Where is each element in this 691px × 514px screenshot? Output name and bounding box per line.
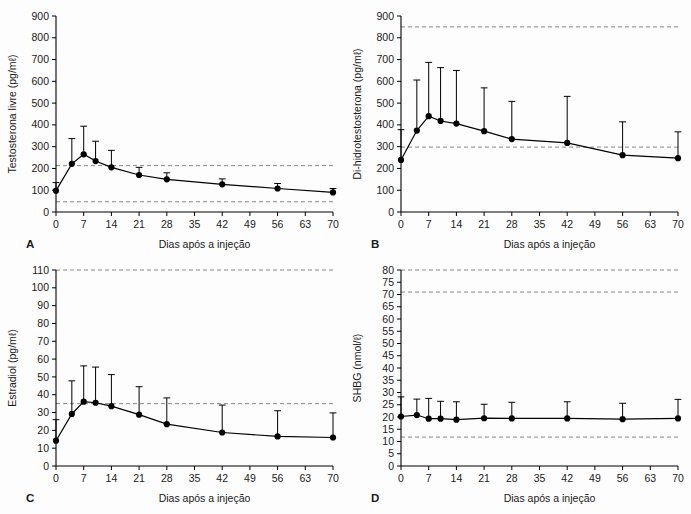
- data-point-marker: [275, 433, 281, 439]
- y-tick-label: 100: [31, 281, 49, 293]
- x-tick-label: 70: [327, 472, 339, 484]
- x-tick-label: 28: [506, 218, 518, 230]
- x-tick-label: 28: [161, 472, 173, 484]
- y-tick-label: 300: [31, 140, 49, 152]
- chart-svg-a: 0100200300400500600700800900071421283542…: [0, 0, 345, 254]
- y-tick-label: 10: [37, 442, 49, 454]
- data-point-marker: [136, 412, 142, 418]
- data-point-marker: [426, 416, 432, 422]
- y-tick-label: 300: [376, 140, 394, 152]
- y-tick-label: 65: [382, 300, 394, 312]
- x-tick-label: 21: [478, 218, 490, 230]
- data-point-marker: [398, 413, 404, 419]
- data-point-marker: [53, 188, 59, 194]
- y-tick-label: 500: [31, 97, 49, 109]
- x-tick-label: 56: [617, 218, 629, 230]
- data-point-marker: [481, 128, 487, 134]
- y-tick-label: 110: [32, 264, 49, 276]
- x-tick-label: 56: [272, 218, 284, 230]
- plot-area-a: 0100200300400500600700800900071421283542…: [6, 10, 339, 250]
- data-point-marker: [437, 416, 443, 422]
- y-tick-label: 900: [376, 10, 394, 22]
- data-point-marker: [620, 416, 626, 422]
- y-tick-label: 15: [382, 423, 394, 435]
- x-tick-label: 63: [644, 472, 656, 484]
- data-point-marker: [481, 415, 487, 421]
- x-tick-label: 63: [299, 472, 311, 484]
- x-tick-label: 49: [244, 218, 256, 230]
- y-tick-label: 70: [37, 335, 49, 347]
- data-point-marker: [69, 411, 75, 417]
- x-axis-title: Dias após a injeção: [504, 492, 596, 504]
- y-tick-label: 50: [37, 371, 49, 383]
- data-point-marker: [81, 399, 87, 405]
- data-point-marker: [53, 438, 59, 444]
- x-tick-label: 28: [506, 472, 518, 484]
- x-tick-label: 63: [299, 218, 311, 230]
- y-tick-label: 75: [382, 276, 394, 288]
- data-point-marker: [564, 140, 570, 146]
- data-point-marker: [437, 118, 443, 124]
- panel-letter-b: B: [371, 238, 379, 250]
- data-point-marker: [509, 415, 515, 421]
- data-point-marker: [330, 189, 336, 195]
- data-point-marker: [398, 157, 404, 163]
- y-tick-label: 60: [382, 313, 394, 325]
- panel-letter-d: D: [371, 492, 379, 504]
- x-tick-label: 56: [272, 472, 284, 484]
- x-axis-title: Dias após a injeção: [504, 238, 596, 250]
- data-point-marker: [275, 185, 281, 191]
- x-tick-label: 35: [534, 472, 546, 484]
- x-tick-label: 21: [478, 472, 490, 484]
- x-tick-label: 14: [451, 218, 463, 230]
- data-point-marker: [81, 151, 87, 157]
- x-tick-label: 0: [398, 472, 404, 484]
- y-tick-label: 5: [388, 447, 394, 459]
- y-tick-label: 800: [376, 31, 394, 43]
- chart-svg-d: 0510152025303540455055606570758007142128…: [345, 254, 690, 508]
- y-tick-label: 90: [37, 299, 49, 311]
- data-point-marker: [108, 403, 114, 409]
- chart-panel-a: 0100200300400500600700800900071421283542…: [0, 0, 345, 254]
- data-point-marker: [453, 417, 459, 423]
- y-tick-label: 700: [376, 53, 394, 65]
- x-tick-label: 56: [617, 472, 629, 484]
- y-tick-label: 900: [31, 10, 49, 22]
- x-tick-label: 7: [426, 218, 432, 230]
- x-tick-label: 63: [644, 218, 656, 230]
- y-tick-label: 50: [382, 337, 394, 349]
- y-tick-label: 500: [376, 97, 394, 109]
- chart-panel-c: 0102030405060708090100110071421283542495…: [0, 254, 345, 508]
- chart-panel-b: 0100200300400500600700800900071421283542…: [345, 0, 690, 254]
- y-tick-label: 35: [382, 374, 394, 386]
- x-tick-label: 21: [133, 218, 145, 230]
- x-tick-label: 0: [53, 472, 59, 484]
- y-tick-label: 600: [376, 75, 394, 87]
- x-tick-label: 7: [81, 472, 87, 484]
- y-tick-label: 0: [43, 206, 49, 218]
- data-point-marker: [453, 120, 459, 126]
- data-point-marker: [92, 400, 98, 406]
- data-series-line: [56, 402, 333, 441]
- x-tick-label: 35: [189, 472, 201, 484]
- x-tick-label: 49: [589, 218, 601, 230]
- y-tick-label: 25: [382, 398, 394, 410]
- plot-area-d: 0510152025303540455055606570758007142128…: [351, 264, 684, 504]
- y-axis-title: Di-hidrotestosterona (pg/mℓ): [351, 48, 363, 179]
- y-tick-label: 10: [382, 435, 394, 447]
- x-tick-label: 49: [244, 472, 256, 484]
- x-tick-label: 70: [672, 218, 684, 230]
- data-point-marker: [426, 113, 432, 119]
- data-point-marker: [414, 412, 420, 418]
- x-axis-title: Dias após a injeção: [159, 492, 251, 504]
- y-tick-label: 55: [382, 325, 394, 337]
- x-tick-label: 7: [426, 472, 432, 484]
- data-point-marker: [675, 155, 681, 161]
- x-tick-label: 70: [327, 218, 339, 230]
- panel-letter-c: C: [26, 492, 34, 504]
- y-tick-label: 45: [382, 349, 394, 361]
- y-tick-label: 400: [376, 118, 394, 130]
- figure-panel-grid: 0100200300400500600700800900071421283542…: [0, 0, 691, 514]
- y-tick-label: 80: [37, 317, 49, 329]
- x-tick-label: 28: [161, 218, 173, 230]
